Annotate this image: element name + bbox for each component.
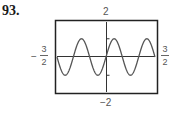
plot-area [0, 0, 187, 117]
